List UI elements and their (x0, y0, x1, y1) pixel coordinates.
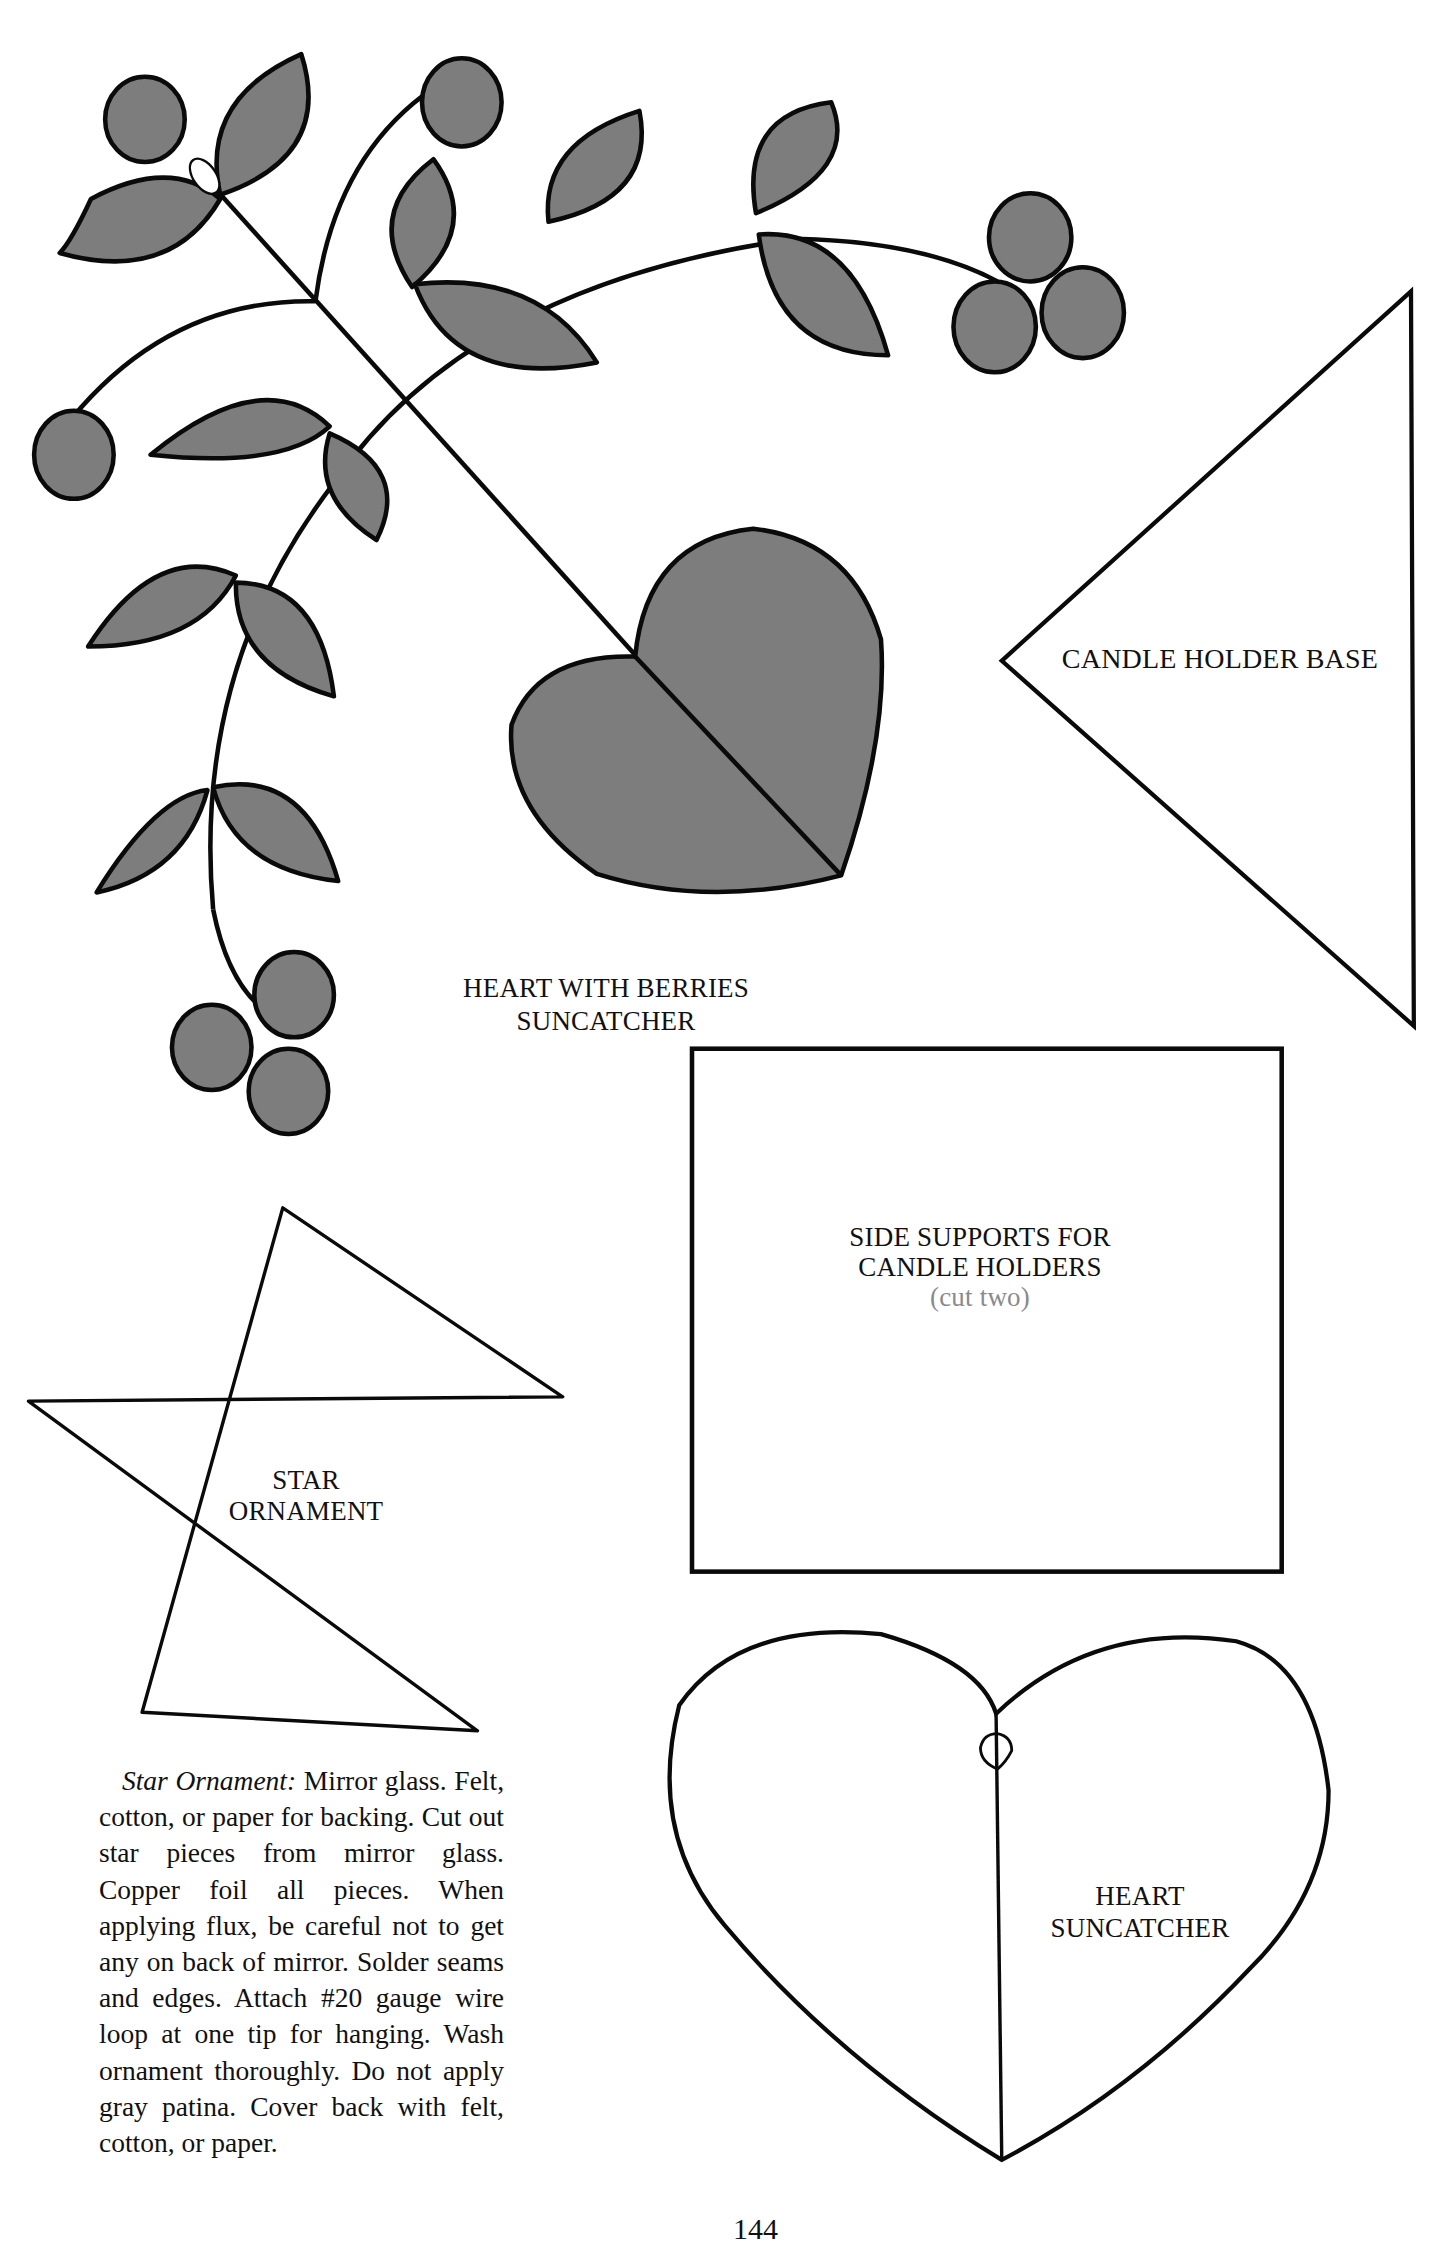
berry (422, 58, 502, 146)
instructions-title: Star Ornament: (122, 1765, 296, 1796)
label-line: CANDLE HOLDER BASE (1050, 642, 1390, 675)
leaf (213, 784, 338, 881)
leaf (88, 567, 236, 647)
label-line: SUNCATCHER (421, 1005, 791, 1038)
leaf (60, 178, 221, 262)
instructions-text: Mirror glass. Felt, cotton, or paper for… (99, 1765, 504, 2158)
label-line: HEART (1030, 1880, 1250, 1912)
star-ornament-instructions: Star Ornament: Mirror glass. Felt, cotto… (99, 1763, 504, 2161)
heart-center-line (996, 1714, 1002, 2160)
berry (1042, 267, 1124, 358)
leaf (151, 400, 330, 458)
label-line: SUNCATCHER (1030, 1912, 1250, 1944)
heart-suncatcher-label: HEART SUNCATCHER (1030, 1880, 1250, 1944)
heart-with-berries-shape (511, 529, 882, 892)
leaf (759, 234, 888, 355)
page-number: 144 (733, 2212, 778, 2243)
berry (989, 193, 1071, 281)
candle-holder-base-label: CANDLE HOLDER BASE (1050, 642, 1390, 675)
label-line: ORNAMENT (196, 1496, 416, 1527)
heart-with-berries-label: HEART WITH BERRIES SUNCATCHER (421, 972, 791, 1038)
berry (105, 77, 185, 162)
berry (249, 1049, 329, 1134)
label-line: SIDE SUPPORTS FOR (770, 1222, 1190, 1252)
leaf (97, 790, 208, 892)
leaf-group-top-left (60, 54, 309, 261)
berry (953, 281, 1035, 372)
label-line: STAR (196, 1465, 416, 1496)
star-ornament-label: STAR ORNAMENT (196, 1465, 416, 1527)
leaf (392, 159, 454, 287)
berry (172, 1005, 252, 1090)
berry (34, 411, 114, 499)
leaf (415, 282, 597, 368)
berry (254, 952, 334, 1037)
leaf (217, 54, 309, 195)
leaf (325, 433, 387, 540)
vine-stems (71, 88, 997, 1009)
leaf (753, 102, 837, 213)
side-supports-label: SIDE SUPPORTS FOR CANDLE HOLDERS (cut tw… (770, 1222, 1190, 1312)
leaf (548, 111, 642, 222)
leaf (236, 583, 334, 697)
label-line: CANDLE HOLDERS (770, 1252, 1190, 1282)
label-line: HEART WITH BERRIES (421, 972, 791, 1005)
cut-note: (cut two) (770, 1282, 1190, 1312)
